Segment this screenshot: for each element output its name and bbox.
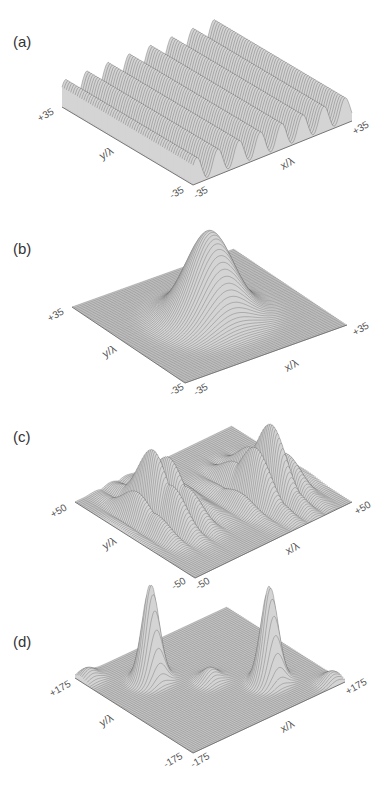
panel-a-x-max-tick: +35 — [351, 119, 372, 137]
panel-c-x-max-tick: +50 — [353, 499, 374, 517]
panel-d-y-max-tick: +175 — [48, 678, 73, 699]
panel-a-y-max-tick: +35 — [36, 106, 57, 124]
panel-c-surface — [75, 424, 352, 578]
panel-b-x-axis-label: x/λ — [282, 356, 301, 374]
panel-d: +175 -175 -175 +175 y/λ x/λ — [48, 585, 369, 770]
panel-b-x-max-tick: +35 — [351, 320, 372, 338]
panel-c-y-max-tick: +50 — [49, 502, 70, 520]
panel-a-y-axis-label: y/λ — [97, 144, 116, 162]
panel-d-y-min-tick: -175 — [162, 750, 185, 770]
panel-a-x-min-tick: -35 — [192, 184, 210, 201]
panel-d-y-axis-label: y/λ — [97, 711, 116, 729]
panel-b-label: (b) — [13, 240, 31, 257]
panel-a-x-axis-label: x/λ — [278, 154, 297, 172]
panel-d-label: (d) — [13, 633, 31, 650]
panel-a: +35 -35 -35 +35 y/λ x/λ — [36, 20, 372, 201]
panel-b-surface — [72, 230, 347, 383]
figure-canvas: +35 -35 -35 +35 y/λ x/λ +35 -35 -35 +35 … — [0, 0, 392, 790]
panel-d-x-axis-label: x/λ — [278, 717, 297, 735]
panel-c-x-axis-label: x/λ — [283, 539, 302, 557]
panel-b-x-min-tick: -35 — [192, 381, 210, 398]
panel-d-x-max-tick: +175 — [344, 676, 369, 697]
panel-c-label: (c) — [13, 428, 31, 445]
panel-b-y-axis-label: y/λ — [100, 342, 119, 360]
panel-a-label: (a) — [13, 33, 31, 50]
panel-c: +50 -50 -50 +50 y/λ x/λ — [49, 424, 374, 592]
panel-b-y-min-tick: -35 — [168, 381, 186, 398]
panel-c-y-min-tick: -50 — [170, 575, 188, 592]
panel-b-y-max-tick: +35 — [46, 306, 67, 324]
panel-d-surface — [75, 585, 345, 753]
panel-c-y-axis-label: y/λ — [100, 534, 119, 552]
panel-b: +35 -35 -35 +35 y/λ x/λ — [46, 230, 372, 398]
panel-a-y-min-tick: -35 — [168, 184, 186, 201]
